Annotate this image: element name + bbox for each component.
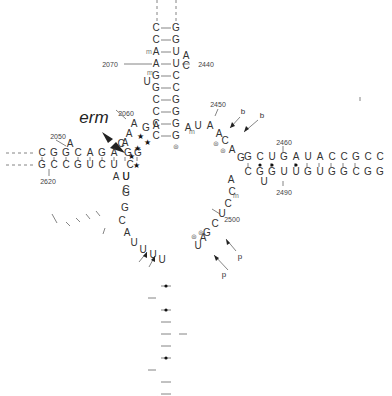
modification-mark: m [233,192,239,199]
position-number: 2440 [198,61,214,68]
nucleotide: G [152,71,160,81]
nucleotide: C [152,107,159,117]
position-number: 2460 [276,139,292,146]
nucleotide: G [364,167,372,177]
modified-base-mark: ⊛ [191,233,197,240]
nucleotide: C [221,136,228,146]
nucleotide: C [376,152,383,162]
nucleotide: G [328,167,336,177]
nucleotide: C [152,131,159,141]
modified-base-mark: ⊛ [173,143,179,150]
nucleotide: C [62,160,69,170]
nucleotide: A [131,119,138,129]
nucleotide: G [172,107,180,117]
nucleotide: C [152,95,159,105]
nucleotide: C [224,199,231,209]
nucleotide: C [98,160,105,170]
nucleotide: C [74,148,81,158]
nucleotide: A [228,175,235,185]
nucleotide: U [86,160,93,170]
nucleotide: G [172,119,180,129]
nucleotide: U [172,59,179,69]
nucleotide: G [268,167,276,177]
nucleotide: A [111,148,118,158]
nucleotide: U [292,167,299,177]
nucleotide: A [126,129,133,139]
nucleotide: G [50,148,58,158]
nucleotide: U [149,250,156,260]
modification-mark: m [147,69,153,76]
nucleotide: U [304,152,311,162]
nucleotide: A [122,138,129,148]
b-mark: b [260,112,264,120]
nucleotide: G [352,152,360,162]
position-number: 2490 [276,189,292,196]
nucleotide: C [152,23,159,33]
nucleotide: G [38,160,46,170]
star-mark: ★ [144,139,151,147]
nucleotide: C [340,152,347,162]
erm-label: erm [79,108,108,128]
nucleotide: A [87,148,94,158]
modification-mark: m [146,48,152,55]
nucleotide: G [152,83,160,93]
position-number: 2060 [118,110,134,117]
nucleotide: U [194,121,201,131]
nucleotide: C [38,148,45,158]
nucleotide: A [153,47,160,57]
nucleotide: U [172,47,179,57]
nucleotide: U [158,255,165,265]
modified-base-mark: ⊛ [220,147,226,154]
nucleotide: G [98,148,106,158]
nucleotide: C [364,152,371,162]
modification-mark: m [189,128,195,135]
connector-lines [0,0,392,396]
position-number: 2070 [102,61,118,68]
nucleotide: U [280,167,287,177]
nucleotide: A [113,172,120,182]
nucleotide: U [130,238,137,248]
nucleotide: C [172,83,179,93]
nucleotide: A [293,152,300,162]
nucleotide: U [122,172,129,182]
nucleotide: G [121,203,129,213]
nucleotide: C [352,167,359,177]
nucleotide: G [340,167,348,177]
nucleotide: C [211,219,218,229]
modified-base-mark: ⊛ [213,140,219,147]
nucleotide: U [260,177,267,187]
position-number: 2450 [210,101,226,108]
nucleotide: G [280,152,288,162]
nucleotide: C [50,160,57,170]
p-mark: p [222,271,226,279]
position-number: 2050 [50,133,66,140]
p-mark: p [238,253,242,261]
nucleotide: C [152,35,159,45]
nucleotide: C [328,152,335,162]
nucleotide: A [67,139,74,149]
star-mark: ★ [137,133,144,141]
nucleotide: U [316,167,323,177]
nucleotide: C [182,61,189,71]
nucleotide: G [172,95,180,105]
nucleotide: U [110,160,117,170]
nucleotide: G [172,23,180,33]
nucleotide: U [194,241,201,251]
nucleotide: G [304,167,312,177]
nucleotide: C [172,71,179,81]
position-number: 2500 [224,216,240,223]
nucleotide: U [143,77,150,87]
nucleotide: G [172,131,180,141]
nucleotide: A [153,121,160,131]
nucleotide: G [122,188,130,198]
nucleotide: A [153,59,160,69]
b-mark: b [241,108,245,116]
nucleotide: A [229,145,236,155]
nucleotide: U [268,152,275,162]
nucleotide: A [124,228,131,238]
nucleotide: A [317,152,324,162]
modified-base-mark: ⊛ [198,229,204,236]
nucleotide: C [118,216,125,226]
nucleotide: G [74,160,82,170]
nucleotide: C [244,167,251,177]
